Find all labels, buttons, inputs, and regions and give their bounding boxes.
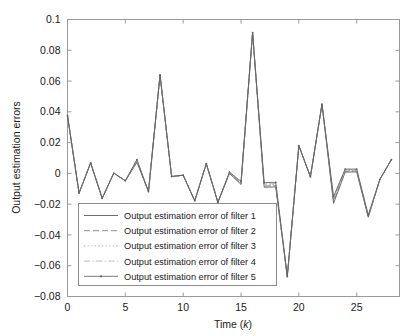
legend-marker-5	[100, 275, 102, 277]
series-marker	[298, 145, 300, 147]
y-tick-label: 0.04	[40, 105, 61, 117]
legend-label-4: Output estimation error of filter 4	[124, 257, 256, 267]
x-axis-tick-labels: 0510152025	[65, 301, 363, 313]
y-tick-label: 0.06	[40, 75, 61, 87]
x-axis-title: Time (k)	[214, 318, 252, 330]
y-tick-label: 0.1	[46, 13, 61, 25]
series-marker	[182, 174, 184, 176]
series-marker	[344, 168, 346, 170]
series-marker	[286, 276, 288, 278]
series-marker	[171, 176, 173, 178]
x-tick-label: 0	[65, 301, 71, 313]
y-tick-label: 0	[55, 167, 61, 179]
series-marker	[252, 32, 254, 34]
x-tick-label: 5	[122, 301, 128, 313]
series-marker	[159, 74, 161, 76]
y-axis-title: Output estimation errors	[10, 101, 22, 214]
series-marker	[321, 103, 323, 105]
series-marker	[194, 200, 196, 202]
series-marker	[333, 196, 335, 198]
series-marker	[391, 159, 393, 161]
series-marker	[275, 181, 277, 183]
legend-label-1: Output estimation error of filter 1	[124, 211, 256, 221]
y-tick-label: −0.04	[34, 229, 61, 241]
series-marker	[367, 214, 369, 216]
x-axis-title-close: )	[249, 318, 253, 330]
series-marker	[113, 172, 115, 174]
x-tick-label: 20	[293, 301, 305, 313]
series-marker	[78, 192, 80, 194]
legend-label-3: Output estimation error of filter 3	[124, 241, 256, 251]
legend-label-5: Output estimation error of filter 5	[124, 272, 256, 282]
y-tick-label: 0.02	[40, 136, 61, 148]
y-tick-label: 0.08	[40, 44, 61, 56]
y-axis-tick-labels: −0.08−0.06−0.04−0.0200.020.040.060.080.1	[34, 13, 61, 302]
series-marker	[67, 115, 69, 117]
series-marker	[263, 182, 265, 184]
legend: Output estimation error of filter 1Outpu…	[79, 204, 277, 286]
series-marker	[379, 179, 381, 181]
series-marker	[240, 180, 242, 182]
series-marker	[217, 201, 219, 203]
x-axis-title-plain: Time (	[214, 318, 244, 330]
series-marker	[229, 171, 231, 173]
figure-container: −0.08−0.06−0.04−0.0200.020.040.060.080.1…	[0, 0, 420, 336]
y-tick-label: −0.08	[34, 290, 61, 302]
series-marker	[101, 197, 103, 199]
series-marker	[205, 163, 207, 165]
line-chart: −0.08−0.06−0.04−0.0200.020.040.060.080.1…	[0, 0, 420, 336]
y-tick-label: −0.02	[34, 198, 61, 210]
series-marker	[148, 191, 150, 193]
series-marker	[310, 176, 312, 178]
legend-label-2: Output estimation error of filter 2	[124, 226, 256, 236]
series-marker	[90, 162, 92, 164]
x-tick-label: 10	[177, 301, 189, 313]
x-tick-label: 15	[235, 301, 247, 313]
x-tick-label: 25	[351, 301, 363, 313]
series-marker	[124, 180, 126, 182]
series-marker	[356, 168, 358, 170]
series-marker	[136, 159, 138, 161]
y-tick-label: −0.06	[34, 259, 61, 271]
